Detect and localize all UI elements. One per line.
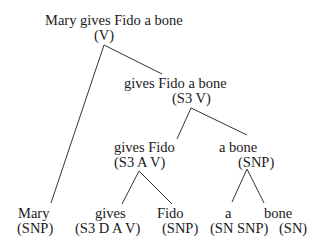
node-root: Mary gives Fido a bone (V) <box>45 13 183 43</box>
node-gives-fido-cat: (S3 A V) <box>114 155 175 170</box>
node-gives: gives (S3 D A V) <box>75 206 140 236</box>
edge-a-bone-bone <box>247 169 264 203</box>
node-fido-text: Fido <box>157 206 198 221</box>
node-vp-text: gives Fido a bone <box>124 76 227 91</box>
node-gives-text: gives <box>75 206 140 221</box>
edge-vp-gives-fido <box>177 108 191 139</box>
edge-gives-fido-fido <box>139 171 172 204</box>
edge-vp-a-bone <box>191 108 247 135</box>
node-mary-cat: (SNP) <box>17 221 53 236</box>
node-vp-cat: (S3 V) <box>124 91 227 106</box>
node-gives-fido: gives Fido (S3 A V) <box>114 140 175 170</box>
edge-root-mary <box>51 45 104 203</box>
edge-root-vp <box>104 45 162 74</box>
node-bone: bone (SN) <box>264 206 307 236</box>
node-gives-fido-text: gives Fido <box>114 140 175 155</box>
node-fido-cat: (SNP) <box>162 221 198 236</box>
node-a-bone-cat: (SNP) <box>219 155 274 170</box>
edge-gives-fido-gives <box>122 171 139 204</box>
node-mary-text: Mary <box>17 206 53 221</box>
node-bone-text: bone <box>264 206 307 221</box>
node-vp: gives Fido a bone (S3 V) <box>124 76 227 106</box>
node-root-cat: (V) <box>45 28 183 43</box>
node-bone-cat: (SN) <box>279 221 307 236</box>
node-a-bone: a bone (SNP) <box>219 140 274 170</box>
node-gives-cat: (S3 D A V) <box>75 221 140 236</box>
node-a-bone-text: a bone <box>219 140 274 155</box>
node-a: a (SN SNP) <box>210 206 268 236</box>
edge-a-bone-a <box>232 169 247 202</box>
node-a-cat: (SN SNP) <box>210 221 268 236</box>
node-root-text: Mary gives Fido a bone <box>45 13 183 28</box>
node-a-text: a <box>210 206 268 221</box>
node-mary: Mary (SNP) <box>17 206 53 236</box>
node-fido: Fido (SNP) <box>157 206 198 236</box>
